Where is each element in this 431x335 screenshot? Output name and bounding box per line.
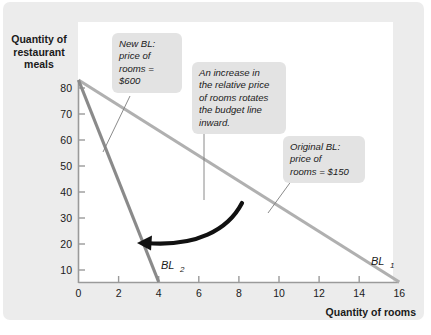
annotation-rotation-note: An increase in the relative price of roo…: [192, 62, 286, 134]
y-axis-title-line-1: Quantity of: [2, 33, 76, 46]
y-tick-label-20: 20: [60, 238, 72, 250]
annotation-original-bl: Original BL: price of rooms = $150: [283, 136, 365, 183]
x-axis-ticks: [119, 276, 360, 283]
annotation-rotation-note-line-3: of rooms rotates: [199, 92, 279, 104]
y-tick-label-70: 70: [60, 108, 72, 120]
x-tick-label-16: 16: [393, 287, 405, 299]
x-axis-title: Quantity of rooms: [276, 306, 416, 319]
y-tick-label-40: 40: [60, 186, 72, 198]
bl2-label: BL 2: [161, 259, 185, 274]
annotation-original-bl-line-2: price of: [290, 153, 358, 165]
bl1-label-text: BL: [371, 255, 384, 267]
x-tick-label-12: 12: [313, 287, 325, 299]
y-tick-label-10: 10: [60, 264, 72, 276]
rotation-arrow: [137, 203, 242, 251]
bl2-label-text: BL: [161, 259, 174, 271]
x-tick-label-0: 0: [76, 287, 82, 299]
annotation-new-bl-line-3: rooms =: [119, 63, 175, 75]
y-axis-ticks: [79, 88, 86, 270]
annotation-new-bl-line-4: $600: [119, 75, 175, 87]
y-tick-label-80: 80: [60, 82, 72, 94]
x-tick-label-14: 14: [353, 287, 365, 299]
annotation-rotation-note-line-1: An increase in: [199, 67, 279, 79]
x-tick-label-10: 10: [273, 287, 285, 299]
annotation-new-bl-line-1: New BL:: [119, 38, 175, 50]
x-tick-label-4: 4: [156, 287, 162, 299]
y-tick-label-60: 60: [60, 134, 72, 146]
x-tick-label-6: 6: [196, 287, 202, 299]
y-axis-title: Quantity of restaurant meals: [2, 33, 76, 71]
annotation-rotation-note-line-2: the relative price: [199, 79, 279, 91]
y-tick-label-30: 30: [60, 212, 72, 224]
x-tick-label-2: 2: [116, 287, 122, 299]
budget-line-bl2: [79, 80, 159, 282]
budget-line-figure: 80 70 60 50 40 30 20 10 0 2 4 6 8 10 12 …: [0, 0, 431, 335]
bl2-label-subscript: 2: [179, 265, 185, 274]
annotation-new-bl: New BL: price of rooms = $600: [112, 33, 182, 93]
x-tick-label-8: 8: [236, 287, 242, 299]
y-tick-label-50: 50: [60, 160, 72, 172]
y-axis-title-line-3: meals: [2, 58, 76, 71]
bl1-label-subscript: 1: [390, 261, 394, 270]
y-axis-title-line-2: restaurant: [2, 46, 76, 59]
annotation-original-bl-line-3: rooms = $150: [290, 166, 358, 178]
annotation-rotation-note-line-5: inward.: [199, 117, 279, 129]
annotation-rotation-note-line-4: the budget line: [199, 104, 279, 116]
annotation-original-bl-line-1: Original BL:: [290, 141, 358, 153]
annotation-new-bl-line-2: price of: [119, 50, 175, 62]
